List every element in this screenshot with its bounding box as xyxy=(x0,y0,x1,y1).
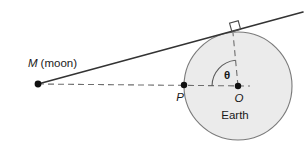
moon-point-marker xyxy=(35,81,42,88)
point-p-marker xyxy=(181,82,187,88)
moon-label: M(moon) xyxy=(28,57,77,69)
moon-symbol-text: M xyxy=(28,57,38,69)
earth-label: Earth xyxy=(221,109,249,121)
moon-word-text: (moon) xyxy=(41,57,78,69)
geometry-diagram: M(moon) P O θ Earth xyxy=(0,0,305,152)
point-p-label: P xyxy=(176,91,184,103)
diagram-canvas: M(moon) P O θ Earth xyxy=(0,0,305,152)
point-o-label: O xyxy=(235,92,244,104)
point-o-marker xyxy=(235,83,241,89)
theta-label: θ xyxy=(224,69,230,81)
